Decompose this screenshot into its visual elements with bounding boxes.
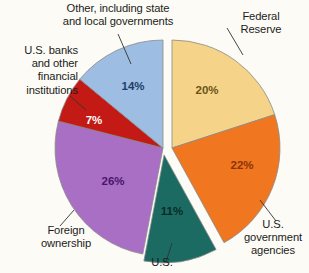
slice-value-us-banks: 7%: [86, 114, 103, 126]
pie-chart-figure: 20%22%11%26%7%14% Other, including state…: [0, 0, 309, 273]
slice-value-foreign-ownership: 26%: [101, 175, 124, 187]
slice-label-other-state-local: Other, including state and local governm…: [52, 2, 184, 28]
slice-value-us-government-agencies: 22%: [230, 159, 253, 171]
slice-label-us-government-agencies: U.S. government agencies: [237, 218, 309, 258]
slice-label-federal-reserve: Federal Reserve: [218, 10, 304, 36]
slice-label-us-banks: U.S. banks and other financial instituti…: [0, 44, 78, 97]
slice-value-us-households: 11%: [161, 205, 183, 217]
slice-label-foreign-ownership: Foreign ownership: [20, 224, 112, 250]
slice-label-us-households: U.S.: [130, 256, 194, 269]
slice-value-federal-reserve: 20%: [195, 84, 218, 96]
slice-value-other-state-local: 14%: [121, 80, 144, 92]
